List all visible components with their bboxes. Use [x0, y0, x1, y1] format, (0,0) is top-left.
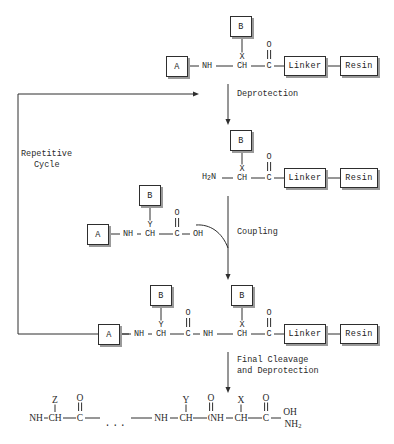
- row1-alpha-carbon: CH: [236, 62, 247, 71]
- row4-carbonyl-oxygen-right: O: [266, 309, 272, 318]
- row5-carbonyl-carbon-1: C: [76, 414, 83, 423]
- diagram-canvas: B A Linker Resin B Linker Resin B A B B …: [0, 0, 394, 444]
- row1-resin-box[interactable]: Resin: [340, 56, 378, 76]
- row5-terminus-oh: OH: [283, 408, 298, 417]
- row3-n-terminus: NH: [122, 230, 133, 239]
- row4-n-terminus-left: NH: [133, 330, 144, 339]
- row2-linker-box[interactable]: Linker: [284, 168, 326, 188]
- row3-acid-terminus: OH: [192, 230, 203, 239]
- row5-side-chain-y: Y: [182, 396, 190, 405]
- row2-n-terminus: H2N: [201, 173, 216, 183]
- repetitive-cycle-label-line2: Cycle: [34, 160, 60, 171]
- row2-carbonyl-carbon: C: [266, 174, 272, 183]
- row5-carbonyl-oxygen-1: O: [76, 394, 84, 403]
- row5-alpha-carbon-2: CH: [179, 414, 193, 423]
- row5-terminus-nh2: NH2: [284, 420, 302, 430]
- coupling-label: Coupling: [237, 227, 278, 238]
- row4-resin-box[interactable]: Resin: [340, 324, 378, 344]
- final-cleavage-label-line2: and Deprotection: [237, 366, 319, 377]
- row4-carbonyl-carbon-right: C: [266, 330, 272, 339]
- row4-protecting-group-box-left[interactable]: B: [150, 285, 172, 306]
- deprotection-label: Deprotection: [237, 89, 298, 100]
- row4-protecting-group-box-right[interactable]: B: [231, 285, 253, 306]
- row4-alpha-carbon-right: CH: [236, 330, 247, 339]
- row5-side-chain-x: X: [237, 396, 245, 405]
- row1-n-terminus: NH: [201, 62, 212, 71]
- row2-resin-box[interactable]: Resin: [340, 168, 378, 188]
- row4-carbonyl-carbon-left: C: [185, 330, 191, 339]
- row5-n-terminus-3: NH: [210, 414, 225, 423]
- row3-carbonyl-carbon: C: [174, 230, 180, 239]
- row5-alpha-carbon-3: CH: [234, 414, 248, 423]
- row3-protecting-group-box[interactable]: B: [139, 185, 161, 206]
- row5-n-terminus-1: NH: [29, 414, 44, 423]
- diagram-line-art: [0, 0, 394, 444]
- row5-chain-ellipsis: ...: [105, 418, 128, 429]
- row4-amide-nitrogen: NH: [202, 330, 213, 339]
- row1-group-a-box[interactable]: A: [166, 56, 188, 77]
- row5-n-terminus-2: NH: [154, 414, 169, 423]
- row1-protecting-group-box[interactable]: B: [230, 16, 252, 37]
- repetitive-cycle-label-line1: Repetitive: [21, 149, 72, 160]
- row5-carbonyl-oxygen-3: O: [262, 394, 270, 403]
- row5-carbonyl-oxygen-2: O: [207, 394, 215, 403]
- row4-alpha-carbon-left: CH: [155, 330, 166, 339]
- row1-carbonyl-carbon: C: [266, 62, 272, 71]
- final-cleavage-label-line1: Final Cleavage: [237, 355, 308, 366]
- row3-carbonyl-oxygen: O: [174, 209, 180, 218]
- row5-carbonyl-carbon-3: C: [262, 414, 269, 423]
- row1-carbonyl-oxygen: O: [266, 41, 272, 50]
- row2-carbonyl-oxygen: O: [266, 153, 272, 162]
- row2-protecting-group-box[interactable]: B: [230, 130, 252, 151]
- row4-carbonyl-oxygen-left: O: [185, 309, 191, 318]
- row4-group-a-box[interactable]: A: [98, 324, 120, 345]
- row5-side-chain-z: Z: [52, 396, 59, 405]
- row2-alpha-carbon: CH: [236, 174, 247, 183]
- row5-alpha-carbon-1: CH: [48, 414, 62, 423]
- row4-linker-box[interactable]: Linker: [284, 324, 326, 344]
- row3-alpha-carbon: CH: [144, 230, 155, 239]
- row3-group-a-box[interactable]: A: [87, 224, 109, 245]
- row1-linker-box[interactable]: Linker: [284, 56, 326, 76]
